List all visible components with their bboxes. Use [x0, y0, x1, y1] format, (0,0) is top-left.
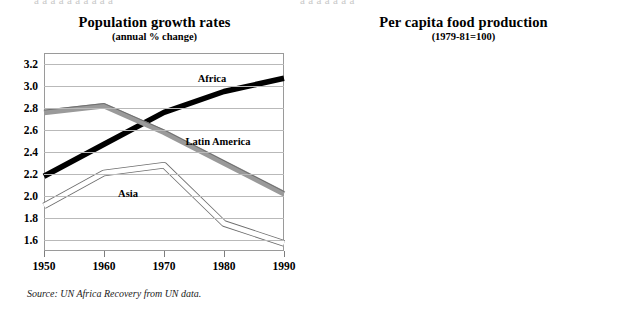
- gridline: [44, 174, 284, 175]
- y-axis-tick-label: 2.8: [24, 102, 38, 114]
- plot-area-population-growth: 3.23.02.82.62.42.22.01.81.61950196019701…: [44, 53, 284, 251]
- series-line-latin-america: [44, 106, 284, 194]
- gridline: [44, 218, 284, 219]
- source-note: Source: UN Africa Recovery from UN data.: [27, 288, 201, 299]
- gridline: [44, 86, 284, 87]
- x-axis-tick-label: 1970: [153, 260, 176, 272]
- y-axis-tick-label: 3.2: [24, 58, 38, 70]
- series-label-latin-america: Latin America: [185, 136, 250, 147]
- y-axis-tick-label: 3.0: [24, 80, 38, 92]
- x-axis-tick: [284, 251, 285, 257]
- x-axis-tick-label: 1990: [273, 260, 296, 272]
- series-line-africa: [44, 78, 284, 176]
- y-axis-tick-label: 2.2: [24, 168, 38, 180]
- series-label-asia: Asia: [118, 187, 138, 198]
- figure-page: a a a a a a a a a a a a a a a a a Popula…: [0, 0, 618, 316]
- chart-panel-population-growth: Population growth rates (annual % change…: [0, 0, 309, 316]
- y-axis-tick-label: 2.0: [24, 190, 38, 202]
- x-axis-tick-label: 1960: [93, 260, 116, 272]
- chart-title: Population growth rates: [0, 14, 309, 31]
- chart-panel-food-production: Per capita food production (1979-81=100)…: [309, 0, 618, 316]
- y-axis-tick-label: 1.6: [24, 234, 38, 246]
- gridline: [44, 64, 284, 65]
- gridline: [44, 196, 284, 197]
- series-label-africa: Africa: [198, 73, 227, 84]
- chart-subtitle: (annual % change): [0, 31, 309, 42]
- y-axis-tick-label: 2.6: [24, 124, 38, 136]
- gridline: [44, 130, 284, 131]
- x-axis-tick: [104, 251, 105, 257]
- y-axis-tick-label: 1.8: [24, 212, 38, 224]
- y-axis-tick-label: 2.4: [24, 146, 38, 158]
- x-axis-tick-label: 1980: [213, 260, 236, 272]
- gridline: [44, 108, 284, 109]
- x-axis-tick: [164, 251, 165, 257]
- gridline: [44, 240, 284, 241]
- gridline: [44, 152, 284, 153]
- x-axis-tick: [44, 251, 45, 257]
- x-axis-tick: [224, 251, 225, 257]
- chart-subtitle: (1979-81=100): [309, 31, 618, 42]
- x-axis-tick-label: 1950: [33, 260, 56, 272]
- chart-title: Per capita food production: [309, 14, 618, 31]
